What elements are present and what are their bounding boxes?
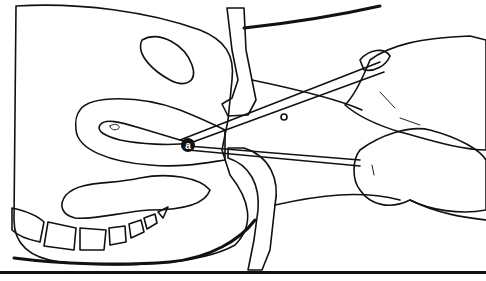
svg-text:a: a bbox=[185, 140, 191, 151]
label-a-badge: a bbox=[181, 138, 195, 152]
forceps bbox=[180, 50, 390, 146]
probe bbox=[188, 146, 360, 166]
lower-hand bbox=[354, 129, 486, 212]
pelvic-illustration: a bbox=[0, 0, 486, 281]
uterus bbox=[76, 99, 225, 166]
bladder bbox=[141, 37, 194, 84]
perineum-strip bbox=[228, 148, 276, 270]
rectum bbox=[62, 176, 210, 219]
upper-hand bbox=[345, 36, 486, 150]
bottom-rule bbox=[0, 271, 486, 274]
vertebrae bbox=[12, 207, 168, 250]
vaginal-wall bbox=[222, 8, 256, 116]
